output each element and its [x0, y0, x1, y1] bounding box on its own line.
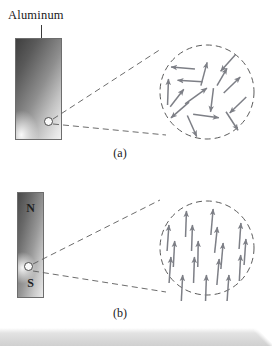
- magnify-circle-a: [160, 45, 254, 139]
- north-pole-label: N: [18, 201, 43, 216]
- domain-arrow-aligned-4: [215, 227, 218, 253]
- domain-arrow-aligned-11: [194, 257, 195, 283]
- aluminum-leader-line: [41, 25, 42, 39]
- aluminum-bar: [15, 38, 62, 140]
- domain-arrows-random: [168, 55, 247, 137]
- domain-arrow-random-4: [224, 77, 241, 93]
- domain-arrow-aligned-10: [169, 257, 171, 283]
- domain-arrow-aligned-2: [167, 225, 169, 251]
- domain-arrow-random-0: [201, 62, 207, 85]
- magnify-circle-b: [160, 201, 254, 295]
- magnet-bar: N S: [17, 192, 44, 298]
- domain-arrow-random-5: [168, 79, 169, 105]
- domain-arrows-aligned: [167, 209, 246, 301]
- page-bottom-edge: [0, 328, 272, 346]
- domain-arrow-aligned-9: [244, 239, 246, 265]
- magnetic-domains-figure: Aluminum (a) N S (b): [0, 0, 272, 346]
- domain-arrow-random-2: [171, 67, 195, 69]
- domain-arrow-aligned-13: [239, 255, 240, 281]
- caption-a: (a): [100, 146, 140, 161]
- domain-arrow-random-7: [211, 88, 214, 112]
- domain-arrow-aligned-16: [227, 275, 229, 301]
- domain-arrow-aligned-15: [206, 275, 207, 301]
- domain-arrow-aligned-14: [181, 275, 182, 301]
- domain-arrow-random-1: [221, 55, 236, 71]
- domain-arrow-random-6: [185, 88, 207, 104]
- domain-arrow-aligned-5: [239, 223, 241, 249]
- domain-arrow-aligned-6: [173, 241, 174, 267]
- domain-arrow-random-14: [217, 68, 227, 85]
- domain-arrow-aligned-12: [217, 259, 219, 285]
- caption-b: (b): [100, 306, 140, 321]
- domain-arrow-aligned-1: [211, 209, 213, 235]
- domain-arrow-aligned-0: [186, 211, 187, 237]
- domain-arrow-random-3: [178, 80, 203, 81]
- domain-arrow-random-13: [170, 89, 184, 106]
- domain-arrow-aligned-8: [221, 243, 223, 269]
- domain-arrow-random-12: [187, 115, 196, 136]
- zoom-source-dot-magnet: [24, 262, 33, 271]
- domain-arrow-random-9: [171, 102, 189, 118]
- domain-arrow-random-11: [226, 112, 238, 130]
- aluminum-label: Aluminum: [8, 8, 64, 23]
- cone-lines-b: [33, 200, 166, 292]
- domain-arrow-random-8: [230, 97, 247, 113]
- domain-arrow-random-10: [193, 114, 219, 118]
- domain-arrow-aligned-3: [192, 225, 193, 251]
- cone-lines-a: [53, 49, 166, 135]
- south-pole-label: S: [18, 276, 43, 291]
- zoom-source-dot-aluminum: [44, 117, 53, 126]
